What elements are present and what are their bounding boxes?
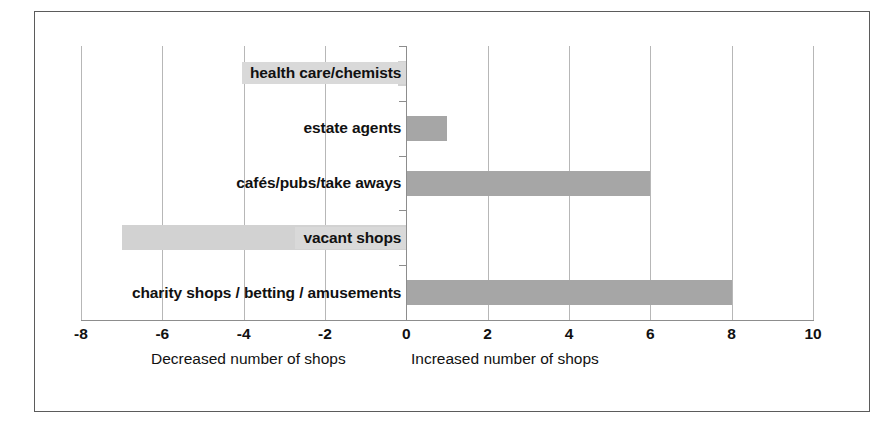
category-label-3: cafés/pubs/take aways xyxy=(228,172,406,194)
x-tick-label--2: -2 xyxy=(318,325,332,343)
x-tick-label-8: 8 xyxy=(727,325,736,343)
gridline-10 xyxy=(813,46,814,320)
value-axis xyxy=(81,320,814,321)
x-tick-label-0: 0 xyxy=(402,325,411,343)
category-tick xyxy=(399,210,406,211)
plot-area: health care/chemistsestate agentscafés/p… xyxy=(81,46,813,320)
gridline-8 xyxy=(732,46,733,320)
bar-3 xyxy=(406,171,650,196)
axis-caption-decreased: Decreased number of shops xyxy=(151,350,346,368)
axis-caption-increased: Increased number of shops xyxy=(411,350,599,368)
bar-2 xyxy=(406,116,447,141)
gridline--8 xyxy=(81,46,82,320)
x-tick-label-6: 6 xyxy=(646,325,655,343)
x-tick-label--6: -6 xyxy=(155,325,169,343)
x-tick-label-2: 2 xyxy=(483,325,492,343)
category-tick xyxy=(399,156,406,157)
x-tick-label--4: -4 xyxy=(237,325,251,343)
category-tick xyxy=(399,101,406,102)
gridline--6 xyxy=(162,46,163,320)
bar-5 xyxy=(406,280,731,305)
category-axis xyxy=(406,46,407,320)
x-tick-label-4: 4 xyxy=(565,325,574,343)
x-tick-label--8: -8 xyxy=(74,325,88,343)
category-label-5: charity shops / betting / amusements xyxy=(124,282,406,304)
x-axis-tick-labels: -8-6-4-20246810 xyxy=(81,325,814,351)
category-tick xyxy=(399,265,406,266)
category-label-2: estate agents xyxy=(296,117,407,139)
x-tick-label-10: 10 xyxy=(804,325,821,343)
gridline-6 xyxy=(650,46,651,320)
category-tick xyxy=(399,46,406,47)
chart-frame: health care/chemistsestate agentscafés/p… xyxy=(34,11,870,412)
category-label-4: vacant shops xyxy=(295,227,406,249)
category-label-1: health care/chemists xyxy=(242,62,406,84)
